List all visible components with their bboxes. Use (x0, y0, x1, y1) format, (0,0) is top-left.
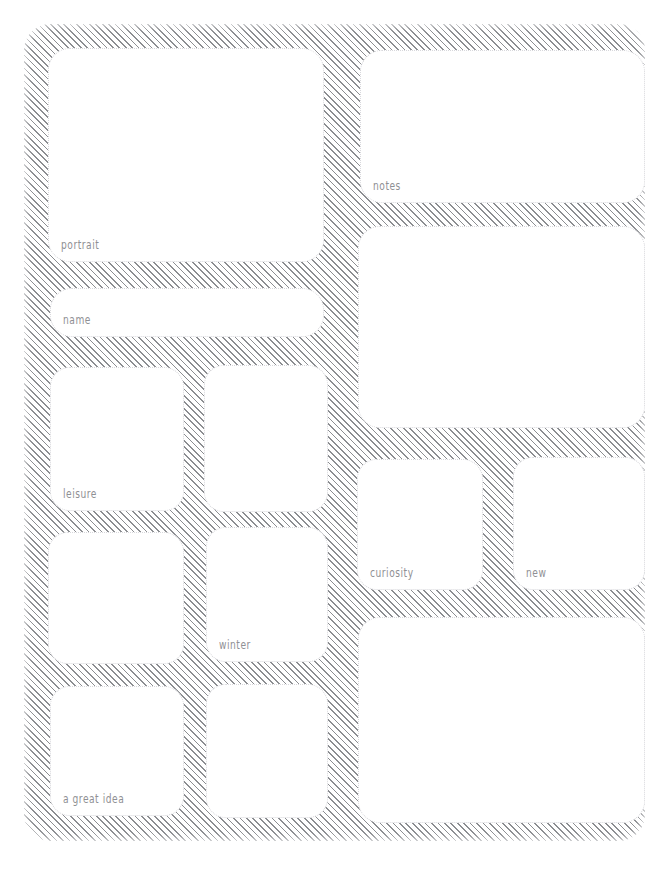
card-blank-b[interactable] (48, 532, 184, 664)
card-new[interactable]: new (513, 457, 645, 590)
card-label-winter: winter (219, 638, 251, 652)
card-winter[interactable]: winter (206, 527, 328, 662)
card-label-new: new (526, 566, 546, 580)
card-label-portrait: portrait (61, 238, 99, 252)
card-label-leisure: leisure (63, 487, 97, 501)
card-blank-c[interactable] (206, 684, 328, 818)
card-blank-d[interactable] (358, 226, 645, 428)
card-label-notes: notes (373, 179, 401, 193)
card-curiosity[interactable]: curiosity (357, 459, 483, 590)
card-blank-a[interactable] (204, 365, 328, 512)
card-label-name: name (63, 313, 91, 327)
card-blank-e[interactable] (358, 617, 645, 823)
card-leisure[interactable]: leisure (50, 367, 184, 511)
card-label-curiosity: curiosity (370, 566, 414, 580)
wireframe-canvas: portrait name leisure winter a great ide… (0, 0, 667, 873)
card-notes[interactable]: notes (360, 50, 645, 203)
card-great-idea[interactable]: a great idea (50, 686, 184, 816)
card-portrait[interactable]: portrait (48, 48, 324, 262)
card-name[interactable]: name (50, 288, 324, 337)
card-label-great-idea: a great idea (63, 792, 124, 806)
